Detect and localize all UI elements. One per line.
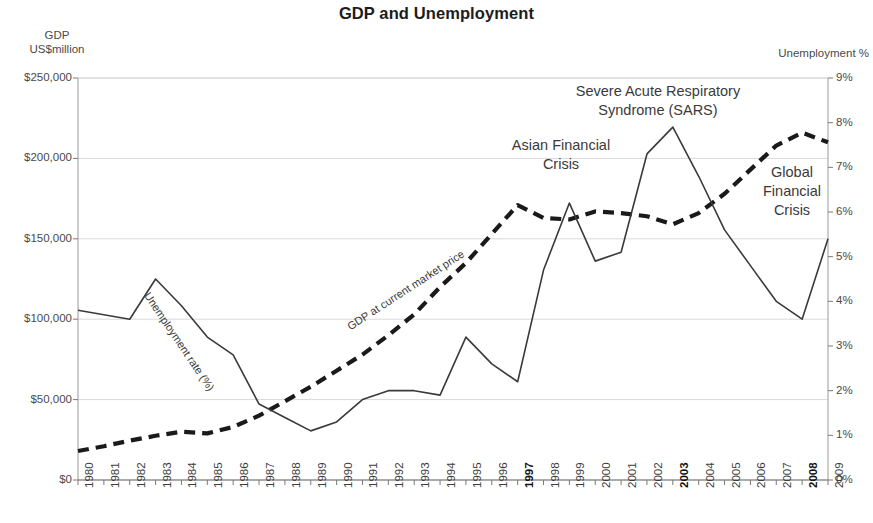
x-axis-tick-2004: 2004 [704, 462, 716, 488]
x-axis-tick-2007: 2007 [781, 462, 793, 488]
y-axis-right-tick: 1% [836, 428, 853, 440]
y-axis-left-tick: $250,000 [2, 71, 72, 83]
x-axis-tick-2006: 2006 [755, 462, 767, 488]
x-axis-tick-1998: 1998 [549, 462, 561, 488]
x-axis-tick-1999: 1999 [574, 462, 586, 488]
x-axis-tick-2003: 2003 [678, 462, 690, 488]
x-axis-tick-1994: 1994 [445, 462, 457, 488]
x-axis-tick-2009: 2009 [833, 462, 845, 488]
x-axis-tick-1996: 1996 [497, 462, 509, 488]
x-axis-tick-1986: 1986 [238, 462, 250, 488]
annotation-sars: Severe Acute Respiratory Syndrome (SARS) [538, 82, 778, 120]
x-axis-tick-1995: 1995 [471, 462, 483, 488]
x-axis-tick-1991: 1991 [367, 462, 379, 488]
series-line-gdp [78, 133, 828, 451]
x-axis-tick-1983: 1983 [161, 462, 173, 488]
y-axis-left-tick: $0 [2, 473, 72, 485]
x-axis-tick-1980: 1980 [83, 462, 95, 488]
x-axis-tick-2008: 2008 [807, 462, 819, 488]
x-axis-tick-2001: 2001 [626, 462, 638, 488]
chart-container: GDP and Unemployment GDP US$million Unem… [0, 0, 873, 523]
x-axis-tick-2000: 2000 [600, 462, 612, 488]
x-axis-tick-1987: 1987 [264, 462, 276, 488]
x-axis-tick-1985: 1985 [212, 462, 224, 488]
y-axis-right-tick: 9% [836, 71, 853, 83]
y-axis-left-tick: $50,000 [2, 393, 72, 405]
x-axis-tick-2005: 2005 [730, 462, 742, 488]
x-axis-tick-1982: 1982 [135, 462, 147, 488]
y-axis-right-tick: 2% [836, 384, 853, 396]
x-axis-tick-1997: 1997 [523, 462, 535, 488]
x-axis-tick-1984: 1984 [186, 462, 198, 488]
x-axis-tick-1992: 1992 [393, 462, 405, 488]
y-axis-right-tick: 4% [836, 294, 853, 306]
y-axis-left-tick: $150,000 [2, 232, 72, 244]
x-axis-tick-2002: 2002 [652, 462, 664, 488]
series-line-unemployment [78, 127, 828, 431]
x-axis-tick-1981: 1981 [109, 462, 121, 488]
x-axis-tick-1990: 1990 [342, 462, 354, 488]
y-axis-right-tick: 8% [836, 116, 853, 128]
y-axis-left-tick: $200,000 [2, 151, 72, 163]
x-axis-tick-1989: 1989 [316, 462, 328, 488]
x-axis-tick-1988: 1988 [290, 462, 302, 488]
y-axis-right-tick: 3% [836, 339, 853, 351]
annotation-asian-financial-crisis: Asian Financial Crisis [466, 136, 656, 174]
x-axis-tick-1993: 1993 [419, 462, 431, 488]
y-axis-left-tick: $100,000 [2, 312, 72, 324]
y-axis-right-tick: 5% [836, 250, 853, 262]
annotation-global-financial-crisis: Global Financial Crisis [742, 163, 842, 220]
